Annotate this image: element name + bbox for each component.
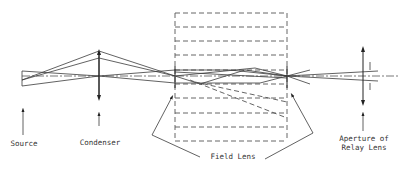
relay-aperture-label-line2: Relay Lens bbox=[334, 143, 394, 152]
rays-between-field-lenses bbox=[175, 68, 287, 118]
source-element bbox=[22, 51, 99, 86]
relay-aperture-label-line1: Aperture of bbox=[334, 134, 394, 143]
source-label: Source bbox=[4, 139, 44, 148]
field-lens-label: Field Lens bbox=[207, 152, 259, 161]
rays-field-lens-to-relay bbox=[287, 70, 378, 84]
condenser-label: Condenser bbox=[74, 138, 126, 147]
rays-condenser-to-field-lens bbox=[99, 51, 175, 83]
